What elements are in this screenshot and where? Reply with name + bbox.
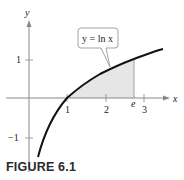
function-callout: y = ln x <box>78 28 118 67</box>
ln-graph: 1 2 e 3 1 −1 x y y = ln x <box>0 0 184 180</box>
figure-caption: FIGURE 6.1 <box>6 160 76 174</box>
shaded-area <box>67 59 134 98</box>
ln-curve <box>38 49 163 157</box>
callout-label: y = ln x <box>82 33 113 44</box>
y-axis-arrow-icon <box>27 20 32 27</box>
x-tick-label-2: 2 <box>104 104 109 115</box>
x-axis-arrow-icon <box>163 96 170 101</box>
x-tick-label-e: e <box>131 98 136 109</box>
x-axis-label: x <box>172 93 178 104</box>
x-tick-label-3: 3 <box>142 104 147 115</box>
y-axis-label: y <box>24 7 30 18</box>
x-tick-label-1: 1 <box>65 104 70 115</box>
y-tick-label-1: 1 <box>16 54 21 65</box>
y-tick-label-neg1: −1 <box>8 132 19 143</box>
